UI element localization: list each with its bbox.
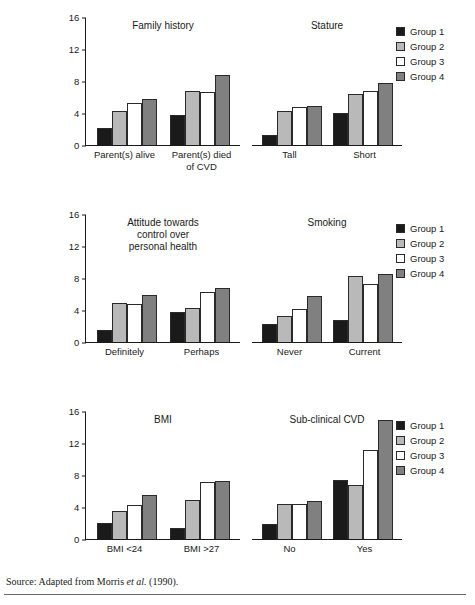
panel-family-history: Family history Parent(s) aliveParent(s) …	[86, 18, 240, 146]
panel-stature: Stature TallShort	[252, 18, 402, 146]
legend-swatch-icon	[396, 451, 405, 460]
legend-item[interactable]: Group 4	[396, 69, 444, 84]
bar	[97, 330, 112, 342]
y-axis-tick-label: 0	[74, 535, 79, 545]
y-axis-tick-label: 4	[74, 306, 79, 316]
bar	[262, 324, 277, 342]
legend-item[interactable]: Group 4	[396, 266, 444, 281]
bar-group	[170, 215, 230, 342]
source-prefix: Source: Adapted from Morris	[6, 576, 127, 587]
bar	[170, 312, 185, 342]
legend-item[interactable]: Group 3	[396, 251, 444, 266]
bar	[333, 480, 348, 539]
x-axis-line	[86, 539, 240, 540]
legend-label: Group 1	[410, 421, 444, 431]
y-axis-tick-label: 16	[69, 210, 79, 220]
bar	[363, 91, 378, 145]
legend-label: Group 1	[410, 224, 444, 234]
x-axis-line	[252, 342, 402, 343]
legend-row-2: Group 1Group 2Group 3Group 4	[396, 221, 444, 281]
legend-label: Group 4	[410, 466, 444, 476]
bar	[348, 94, 363, 145]
bar	[215, 75, 230, 145]
bar	[378, 274, 393, 342]
bar-group	[333, 412, 393, 539]
legend-swatch-icon	[396, 269, 405, 278]
legend-item[interactable]: Group 2	[396, 433, 444, 448]
legend-swatch-icon	[396, 239, 405, 248]
bar	[127, 304, 142, 342]
x-axis-category-label: Tall	[252, 149, 327, 161]
bar-group	[97, 18, 157, 145]
bar-group	[97, 412, 157, 539]
legend-label: Group 3	[410, 57, 444, 67]
legend-item[interactable]: Group 2	[396, 39, 444, 54]
y-axis-tick-label: 4	[74, 109, 79, 119]
y-axis-tick-label: 16	[69, 407, 79, 417]
bar	[333, 113, 348, 145]
x-axis-category-label: Yes	[327, 543, 402, 555]
y-axis-row-2: 1612840	[58, 215, 86, 343]
bar	[378, 420, 393, 539]
x-axis-line	[86, 342, 240, 343]
legend-item[interactable]: Group 1	[396, 221, 444, 236]
legend-item[interactable]: Group 3	[396, 54, 444, 69]
x-axis-category-label: Current	[327, 346, 402, 358]
legend-swatch-icon	[396, 254, 405, 263]
bar-group	[333, 18, 393, 145]
bar	[185, 308, 200, 342]
panel-sub-clinical-cvd: Sub-clinical CVD NoYes	[252, 412, 402, 540]
bar-group	[170, 18, 230, 145]
bar	[127, 505, 142, 539]
y-axis-tick-label: 12	[69, 45, 79, 55]
bar	[277, 316, 292, 342]
legend-label: Group 1	[410, 27, 444, 37]
bar	[142, 99, 157, 145]
legend-item[interactable]: Group 1	[396, 24, 444, 39]
y-axis-tick-label: 8	[74, 471, 79, 481]
bar	[277, 504, 292, 539]
legend-label: Group 2	[410, 239, 444, 249]
bar	[307, 106, 322, 145]
bar	[97, 128, 112, 145]
legend-label: Group 2	[410, 436, 444, 446]
x-axis-category-label: BMI >27	[163, 543, 240, 555]
bar	[215, 288, 230, 342]
panel-attitude: Attitude towards control over personal h…	[86, 215, 240, 343]
bar-group	[170, 412, 230, 539]
bar-group	[333, 215, 393, 342]
legend-item[interactable]: Group 2	[396, 236, 444, 251]
bar	[363, 284, 378, 342]
x-axis-category-label: No	[252, 543, 327, 555]
bar	[215, 481, 230, 539]
bar	[170, 528, 185, 539]
legend-label: Group 4	[410, 269, 444, 279]
legend-swatch-icon	[396, 57, 405, 66]
bar	[112, 111, 127, 145]
bar	[307, 501, 322, 539]
bar-group	[262, 18, 322, 145]
bar	[292, 107, 307, 145]
panel-row-1: 1612840 Family history Parent(s) alivePa…	[0, 8, 475, 193]
legend-item[interactable]: Group 4	[396, 463, 444, 478]
bar	[112, 303, 127, 342]
x-axis-category-label: Perhaps	[163, 346, 240, 358]
legend-item[interactable]: Group 1	[396, 418, 444, 433]
bar	[200, 292, 215, 342]
bar-group	[97, 215, 157, 342]
legend-item[interactable]: Group 3	[396, 448, 444, 463]
y-axis-tick-label: 8	[74, 77, 79, 87]
y-axis-tick-label: 0	[74, 338, 79, 348]
bar	[262, 524, 277, 539]
legend-swatch-icon	[396, 421, 405, 430]
figure-bar-chart-panels: 1612840 Family history Parent(s) alivePa…	[0, 0, 475, 605]
legend-swatch-icon	[396, 27, 405, 36]
bar	[292, 309, 307, 342]
bar	[307, 296, 322, 342]
y-axis-tick-label: 0	[74, 141, 79, 151]
legend-label: Group 2	[410, 42, 444, 52]
bar	[348, 276, 363, 342]
legend-label: Group 4	[410, 72, 444, 82]
panel-smoking: Smoking NeverCurrent	[252, 215, 402, 343]
source-suffix: (1990).	[147, 576, 179, 587]
